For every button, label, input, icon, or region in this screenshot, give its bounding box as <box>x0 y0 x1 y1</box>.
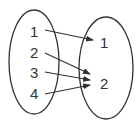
arrow-3-to-2 <box>45 72 90 80</box>
arrow-4-to-2 <box>45 85 90 94</box>
domain-element-1: 1 <box>30 23 38 40</box>
domain-element-2: 2 <box>30 44 38 61</box>
arrow-2-to-2 <box>45 53 90 74</box>
domain-element-3: 3 <box>30 64 38 81</box>
codomain-element-2: 2 <box>100 75 108 92</box>
codomain-ellipse <box>79 17 133 119</box>
domain-element-4: 4 <box>30 85 38 102</box>
mapping-diagram: 1 2 3 4 1 2 <box>0 0 137 124</box>
codomain-element-1: 1 <box>100 34 108 51</box>
